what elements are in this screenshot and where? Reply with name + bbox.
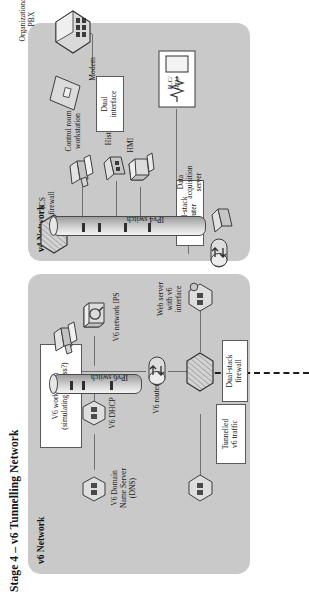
- rotated-diagram-canvas: Stage 4 – v6 Tunnelling Network v6 Netwo…: [0, 0, 262, 598]
- link-dns-dhcp: [94, 434, 95, 470]
- v6-dhcp-icon: [82, 400, 106, 426]
- v6-dns-hex-icon: [188, 474, 213, 502]
- web-server-v6-label: Web server with v6 interface: [156, 268, 183, 330]
- callout-dual-stack-firewall: Dual-stack firewall: [222, 340, 248, 402]
- organizational-pbx-icon: [54, 10, 92, 54]
- link-v4switch-historian: [116, 181, 117, 221]
- callout-dual-interface-label: Dual interface: [101, 91, 119, 118]
- v6-workstation-icon: [52, 321, 82, 355]
- modem-diamond-icon: [48, 74, 82, 112]
- organizational-pbx-label: Organizational PBX: [18, 0, 36, 56]
- v6-network-ips-label: V6 network IPS: [112, 280, 121, 354]
- link-firewall-dns2: [200, 414, 201, 476]
- v6-dns-label: V6 Domain Name Server (DNS): [110, 448, 137, 528]
- callout-dual-stack-firewall-label: Dual-stack firewall: [226, 355, 244, 388]
- ipv4-switch-label: IPv4 switch: [127, 215, 164, 224]
- callout-tunnelled-v6-traffic: Tunnelled v6 traffic: [216, 404, 246, 464]
- link-switch-ips: [94, 336, 95, 366]
- dual-stack-firewall-icon: [186, 352, 214, 392]
- dual-stack-router-icon: [206, 238, 232, 268]
- callout-dual-interface: Dual interface: [96, 76, 124, 132]
- ipv6-switch-label: IPv6 switch: [91, 373, 128, 382]
- data-acquisition-server-label: Data acquisition server: [176, 154, 203, 210]
- web-server-v6-icon: [188, 282, 213, 312]
- plc-rtu-inner-label: PLC/ RTU: [166, 74, 180, 92]
- panel-label-v6: v6 Network: [36, 517, 46, 564]
- v6-dns-icon: [82, 476, 106, 502]
- link-firewall-webserver: [200, 308, 201, 352]
- v6-router-label: V6 router: [152, 376, 161, 422]
- callout-tunnelled-v6-traffic-label: Tunnelled v6 traffic: [222, 419, 240, 450]
- page-title: Stage 4 – v6 Tunnelling Network: [8, 429, 20, 592]
- figure-frame: Stage 4 – v6 Tunnelling Network v6 Netwo…: [0, 0, 262, 598]
- historian-icon: [102, 154, 128, 184]
- v6-network-ips-icon: [82, 302, 108, 334]
- data-acquisition-server-icon: [210, 206, 236, 236]
